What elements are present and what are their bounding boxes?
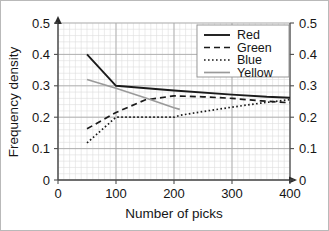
x-axis-title: Number of picks <box>125 206 223 221</box>
frequency-density-line-chart: 00.10.20.30.40.5 00.10.20.30.40.5 010020… <box>1 1 329 231</box>
series-line-green <box>87 96 290 129</box>
chart-legend: RedGreenBlueYellow <box>197 25 289 80</box>
y-axis-tick-label-right: 0.2 <box>299 110 317 125</box>
y-axis-title: Frequency density <box>6 47 21 158</box>
y-axis-tick-label-right: 0.5 <box>299 16 317 31</box>
y-axis-tick-labels-left: 00.10.20.30.40.5 <box>32 16 50 188</box>
x-axis-tick-label: 0 <box>54 186 61 201</box>
y-axis-tick-label: 0.2 <box>32 110 50 125</box>
x-axis-tick-label: 300 <box>221 186 243 201</box>
y-axis-tick-labels-right: 00.10.20.30.40.5 <box>299 16 317 188</box>
x-axis-tick-label: 400 <box>279 186 301 201</box>
series-line-blue <box>87 100 290 143</box>
y-axis-tick-label: 0.5 <box>32 16 50 31</box>
x-axis-tick-labels: 0100200300400 <box>54 186 300 201</box>
y-axis-tick-label-right: 0.4 <box>299 47 317 62</box>
y-axis-tick-label-right: 0.1 <box>299 141 317 156</box>
x-axis-tick-label: 100 <box>105 186 127 201</box>
x-axis-tick-label: 200 <box>163 186 185 201</box>
legend-label-yellow: Yellow <box>237 66 274 80</box>
y-axis-tick-label: 0.1 <box>32 141 50 156</box>
y-axis-tick-label: 0.4 <box>32 47 50 62</box>
y-axis-tick-label: 0.3 <box>32 78 50 93</box>
chart-figure: 00.10.20.30.40.5 00.10.20.30.40.5 010020… <box>0 0 329 231</box>
y-axis-tick-label: 0 <box>43 173 50 188</box>
y-axis-tick-label-right: 0.3 <box>299 78 317 93</box>
